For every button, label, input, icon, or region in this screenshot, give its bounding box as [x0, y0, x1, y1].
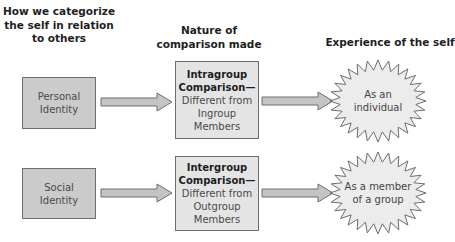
arrow-right-icon — [262, 184, 334, 202]
arrow-right-icon — [262, 92, 334, 110]
identity-label: Personal — [38, 90, 81, 103]
comparison-text: Members — [194, 120, 240, 133]
comparison-text: Members — [194, 213, 240, 226]
experience-line: of a group — [334, 193, 422, 206]
experience-line: As a member — [334, 180, 422, 193]
identity-label: Identity — [40, 103, 78, 116]
comparison-title: Comparison— — [179, 81, 256, 94]
personal-identity-box: Personal Identity — [22, 77, 96, 129]
experience-individual-label: As an individual — [336, 88, 420, 114]
header-experience: Experience of the self — [325, 36, 455, 50]
header-line: the self in relation — [0, 19, 118, 33]
identity-label: Social — [44, 181, 74, 194]
comparison-text: Ingroup — [198, 107, 236, 120]
comparison-text: Different from — [182, 94, 252, 107]
social-identity-box: Social Identity — [22, 168, 96, 219]
experience-line: individual — [336, 101, 420, 114]
intragroup-comparison-box: Intragroup Comparison— Different from In… — [175, 61, 259, 139]
intergroup-comparison-box: Intergroup Comparison— Different from Ou… — [175, 156, 259, 231]
identity-label: Identity — [40, 194, 78, 207]
header-categorize: How we categorize the self in relation t… — [0, 5, 118, 46]
header-line: to others — [0, 32, 118, 46]
comparison-text: Different from — [182, 187, 252, 200]
header-line: How we categorize — [0, 5, 118, 19]
header-comparison: Nature of comparison made — [150, 24, 268, 51]
experience-group-member-label: As a member of a group — [334, 180, 422, 206]
comparison-title: Comparison— — [179, 174, 256, 187]
header-line: comparison made — [150, 38, 268, 52]
comparison-title: Intergroup — [187, 161, 248, 174]
arrow-right-icon — [101, 184, 173, 202]
header-line: Nature of — [150, 24, 268, 38]
comparison-title: Intragroup — [187, 68, 248, 81]
arrow-right-icon — [101, 93, 173, 111]
experience-line: As an — [336, 88, 420, 101]
header-line: Experience of the self — [325, 36, 455, 50]
comparison-text: Outgroup — [193, 200, 240, 213]
